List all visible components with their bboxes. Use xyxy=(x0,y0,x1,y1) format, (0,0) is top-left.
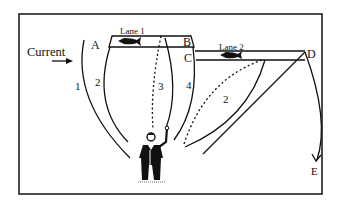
lane-2-box xyxy=(195,51,305,60)
drift-line-2 xyxy=(104,47,128,142)
diagram-frame xyxy=(19,14,322,194)
point-b-label: B xyxy=(183,35,191,49)
point-a-label: A xyxy=(91,38,100,52)
angler-figure-icon xyxy=(138,126,169,182)
arrow-down-icon xyxy=(312,154,321,161)
point-d-label: D xyxy=(307,47,316,61)
drift-3-label: 3 xyxy=(158,80,164,92)
lane2-diagonal-line xyxy=(203,52,305,154)
current-label: Current xyxy=(27,45,66,59)
drift-4-label: 4 xyxy=(186,79,192,91)
lane-2-label: Lane 2 xyxy=(219,42,244,52)
fish-icon-lane-2 xyxy=(220,51,242,59)
drift-2-label: 2 xyxy=(95,76,101,88)
lane2-drift-2-label: 2 xyxy=(223,93,229,105)
lane-1-label: Lane 1 xyxy=(120,26,145,36)
point-c-label: C xyxy=(184,51,192,65)
fishing-lanes-diagram: Current Lane 1 Lane 2 A B C D E 1 2 3 4 … xyxy=(0,0,345,212)
d-to-e-curve xyxy=(305,52,321,160)
point-e-label: E xyxy=(311,165,318,177)
fish-icon-lane-1 xyxy=(118,37,141,46)
drift-1-label: 1 xyxy=(75,80,81,92)
drift-line-3-solid xyxy=(165,38,173,128)
